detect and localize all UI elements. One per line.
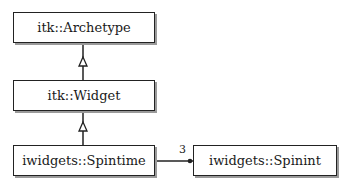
class-label: itk::Widget [48, 88, 121, 103]
multiplicity-label: 3 [179, 143, 186, 156]
multiplicity-dot-icon [188, 159, 193, 164]
class-label: itk::Archetype [37, 20, 131, 35]
class-box-spinint: iwidgets::Spinint [193, 145, 337, 176]
class-box-spintime: iwidgets::Spintime [13, 145, 155, 176]
class-box-archetype: itk::Archetype [13, 12, 155, 43]
inheritance-arrow-icon [79, 122, 87, 131]
inheritance-arrow-icon [79, 57, 87, 66]
class-box-widget: itk::Widget [13, 80, 155, 111]
class-label: iwidgets::Spintime [22, 153, 146, 168]
class-label: iwidgets::Spinint [209, 153, 321, 168]
